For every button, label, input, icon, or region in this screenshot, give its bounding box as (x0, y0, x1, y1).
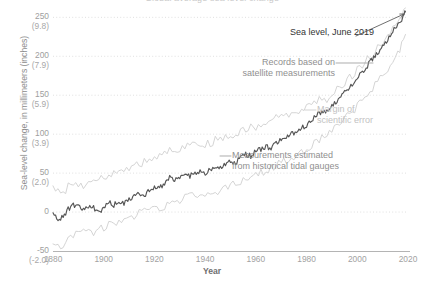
y-tick-inches: (3.9) (9, 139, 49, 149)
y-tick-0: 0 (9, 207, 49, 217)
x-tick-1880: 1880 (44, 254, 63, 264)
x-tick-1960: 1960 (247, 254, 266, 264)
annotation-margin-of-error: Margin of scientific error (317, 104, 373, 126)
y-tick-value: 200 (35, 50, 49, 60)
x-axis-line (53, 251, 410, 252)
error-margin-lines (53, 8, 405, 249)
y-tick-250: 250(9.8) (9, 12, 49, 31)
chart-title: Global average sea level change (0, 0, 424, 3)
annotation-sea-level-2019: Sea level, June 2019 (290, 27, 374, 38)
y-tick-100: 100(3.9) (9, 129, 49, 148)
y-tick-200: 200(7.9) (9, 51, 49, 70)
x-tick-1940: 1940 (196, 254, 215, 264)
x-tick-1920: 1920 (145, 254, 164, 264)
plot-area (53, 8, 408, 251)
sea-level-chart: Global average sea level change Sea-leve… (0, 0, 424, 285)
plot-svg (53, 8, 408, 251)
y-tick-50: 50(2.0) (9, 168, 49, 187)
annotation-satellite-measurements: Records based on satellite measurements (175, 57, 335, 79)
y-tick-value: 250 (35, 11, 49, 21)
y-tick-value: 100 (35, 128, 49, 138)
y-tick-150: 150(5.9) (9, 90, 49, 109)
y-tick-value: 0 (44, 206, 49, 216)
y-tick-value: 150 (35, 89, 49, 99)
y-tick-inches: (2.0) (9, 178, 49, 188)
x-tick-1900: 1900 (94, 254, 113, 264)
y-axis-title: Sea-level change, in millimeters (inches… (19, 0, 29, 229)
y-tick-inches: (5.9) (9, 100, 49, 110)
x-tick-2000: 2000 (348, 254, 367, 264)
x-tick-2020: 2020 (399, 254, 418, 264)
y-tick-value: 50 (40, 167, 49, 177)
x-tick-1980: 1980 (297, 254, 316, 264)
y-tick-inches: (9.8) (9, 22, 49, 32)
annotation-tidal-gauges: Measurements estimated from historical t… (232, 150, 339, 172)
x-axis-title: Year (0, 266, 424, 276)
y-tick-inches: (7.9) (9, 61, 49, 71)
